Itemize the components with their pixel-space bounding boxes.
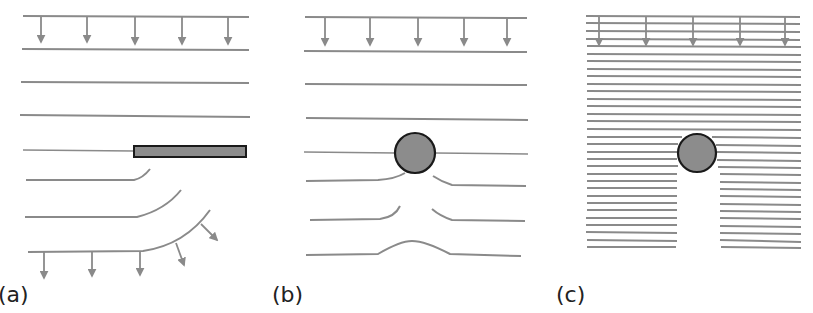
round-obstacle-c (678, 134, 716, 172)
wind-arrows-top (325, 18, 507, 45)
panel-label-b: (b) (272, 282, 303, 307)
wind-arrows-top (41, 17, 228, 44)
panel-c (586, 16, 801, 248)
panel-label-c: (c) (556, 282, 585, 307)
plate-obstacle (134, 146, 246, 157)
round-obstacle-b (395, 133, 435, 173)
diagram-canvas (0, 0, 813, 313)
panel-label-a: (a) (0, 282, 29, 307)
